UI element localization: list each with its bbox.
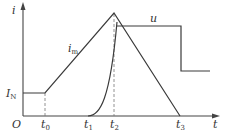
tick-label-t0: t0 xyxy=(41,118,50,132)
y-axis xyxy=(21,2,26,116)
current-curve-label: im xyxy=(68,42,79,56)
current-curve xyxy=(23,13,180,116)
voltage-curve xyxy=(117,26,210,71)
tick-label-t2: t2 xyxy=(110,118,119,132)
voltage-curve-label: u xyxy=(150,12,157,25)
tick-label-t1: t1 xyxy=(84,118,93,132)
origin-label: O xyxy=(12,118,21,131)
x-axis-label: t xyxy=(213,118,218,131)
exponential-curve xyxy=(88,22,117,116)
rated-current-label: IN xyxy=(5,87,16,101)
tick-label-t3: t3 xyxy=(176,118,185,132)
x-axis xyxy=(23,114,220,119)
current-voltage-diagram: i t O IN im u t0 t1 t2 t3 xyxy=(0,0,234,134)
y-axis-label: i xyxy=(12,4,16,17)
